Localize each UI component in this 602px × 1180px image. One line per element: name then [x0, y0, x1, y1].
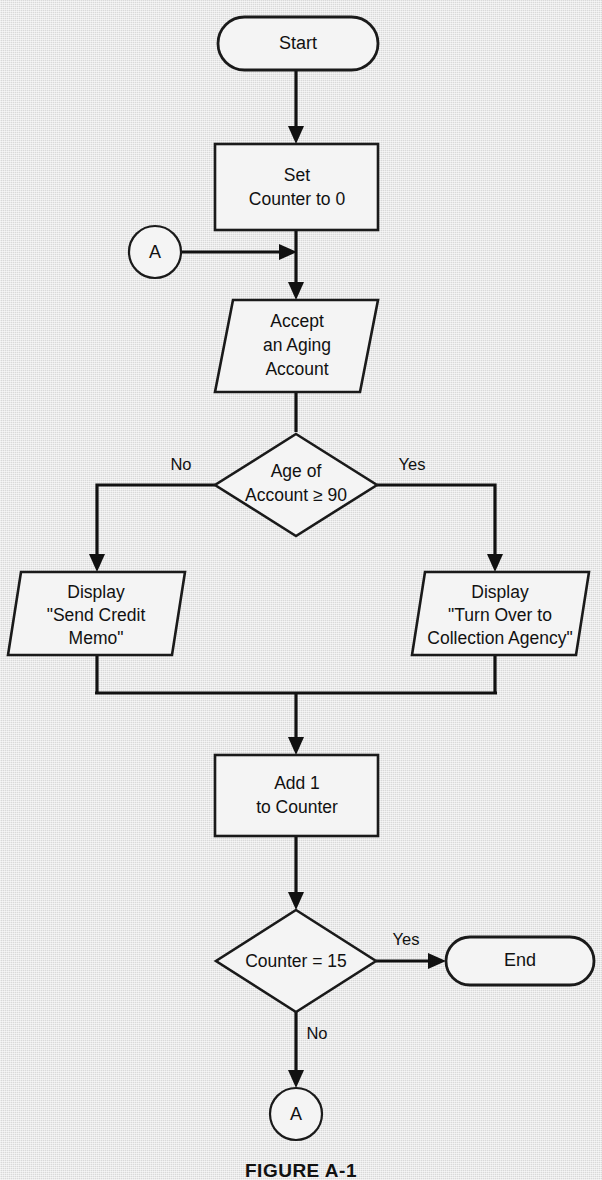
display-collection-line3: Collection Agency" — [427, 628, 572, 648]
display-collection-line1: Display — [471, 582, 529, 602]
accept-account-line3: Account — [265, 359, 328, 379]
counter-decision-label: Counter = 15 — [245, 951, 347, 971]
flowchart-canvas: Start Set Counter to 0 A Accept an Aging… — [0, 0, 602, 1180]
arrowhead-connector-a-bottom — [288, 1070, 304, 1088]
arrowhead-display-memo — [89, 554, 105, 572]
figure-caption: FIGURE A-1 — [0, 1160, 602, 1180]
arrowhead-add-counter — [288, 737, 304, 755]
set-counter-line1: Set — [284, 165, 310, 185]
display-memo-line2: "Send Credit — [47, 605, 146, 625]
add-counter-line2: to Counter — [256, 797, 338, 817]
accept-account-line1: Accept — [270, 311, 324, 331]
connector-a-top-label: A — [149, 242, 161, 262]
node-accept-account[interactable]: Accept an Aging Account — [215, 300, 378, 392]
node-connector-a-bottom[interactable]: A — [270, 1088, 322, 1140]
age-decision-line1: Age of — [271, 461, 322, 481]
branch-label-counter-no: No — [306, 1024, 327, 1042]
edge-age-yes — [377, 485, 495, 562]
end-label: End — [504, 950, 536, 970]
display-memo-line1: Display — [67, 582, 125, 602]
connector-a-bottom-label: A — [290, 1104, 302, 1124]
branch-label-age-no: No — [170, 455, 191, 473]
node-display-collection[interactable]: Display "Turn Over to Collection Agency" — [412, 572, 589, 655]
node-start[interactable]: Start — [218, 17, 378, 70]
node-add-counter[interactable]: Add 1 to Counter — [215, 755, 378, 836]
node-counter-decision[interactable]: Counter = 15 Yes No — [216, 910, 419, 1042]
arrowhead-set-counter — [288, 126, 304, 144]
node-set-counter[interactable]: Set Counter to 0 — [215, 144, 378, 230]
branch-label-age-yes: Yes — [399, 455, 426, 473]
add-counter-line1: Add 1 — [274, 773, 320, 793]
age-decision-line2: Account ≥ 90 — [245, 485, 347, 505]
arrowhead-counter-decision — [288, 892, 304, 910]
edge-age-no — [97, 485, 215, 562]
branch-label-counter-yes: Yes — [393, 930, 420, 948]
start-label: Start — [279, 33, 317, 53]
display-memo-line3: Memo" — [69, 628, 124, 648]
arrowhead-display-collection — [487, 554, 503, 572]
set-counter-line2: Counter to 0 — [249, 189, 346, 209]
arrowhead-connector-a — [279, 244, 297, 260]
add-counter-shape — [215, 755, 378, 836]
arrowhead-end — [428, 953, 446, 969]
display-collection-line2: "Turn Over to — [448, 605, 552, 625]
node-display-memo[interactable]: Display "Send Credit Memo" — [8, 572, 185, 655]
accept-account-line2: an Aging — [263, 335, 331, 355]
flowchart-figure: Start Set Counter to 0 A Accept an Aging… — [0, 0, 602, 1180]
arrowhead-accept — [288, 282, 304, 300]
set-counter-shape — [215, 144, 378, 230]
node-end[interactable]: End — [446, 937, 594, 985]
node-connector-a-top[interactable]: A — [129, 226, 181, 278]
